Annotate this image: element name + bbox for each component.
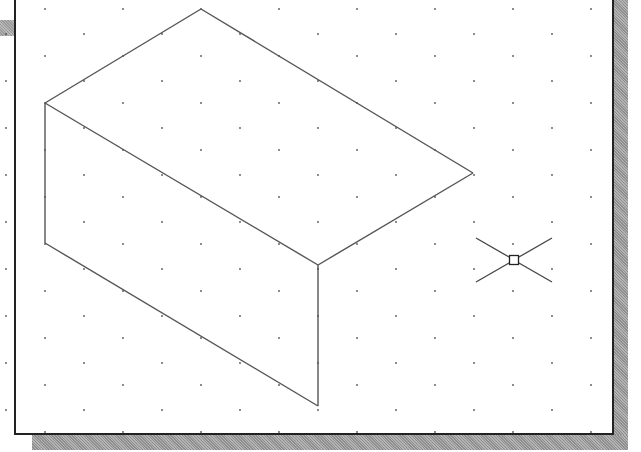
grid-dot [356,196,358,198]
grid-dot [512,337,514,339]
grid-dot [5,268,7,270]
grid-dot [590,337,592,339]
grid-dot [278,243,280,245]
grid-dot [278,8,280,10]
grid-dot [434,431,436,433]
grid-dot [395,80,397,82]
grid-dot [512,384,514,386]
grid-dot [356,243,358,245]
grid-dot [278,384,280,386]
grid-dot [356,290,358,292]
grid-dot [590,102,592,104]
grid-dot [83,33,85,35]
box-edge-left_top-front_top[interactable] [45,103,318,265]
grid-dot [5,409,7,411]
grid-dot [200,55,202,57]
grid-dot [434,243,436,245]
grid-dot [5,174,7,176]
box-edge-top-left_top[interactable] [45,9,201,103]
grid-dot [512,290,514,292]
crosshair-cursor-icon [476,238,552,282]
grid-dot [356,8,358,10]
grid-dot [473,362,475,364]
grid-dot [473,33,475,35]
grid-dot [278,337,280,339]
grid-dot [83,362,85,364]
grid-dot [239,315,241,317]
grid-dot [278,431,280,433]
grid-dot [473,221,475,223]
grid-dot [512,243,514,245]
grid-dot [395,221,397,223]
grid-dot [551,268,553,270]
grid-dot [512,149,514,151]
pickbox-icon [510,256,519,265]
grid-dot [473,315,475,317]
grid-dot [5,362,7,364]
isometric-box[interactable] [45,9,473,406]
grid-dot [200,431,202,433]
grid-dot [551,174,553,176]
grid-dot [239,174,241,176]
grid-dot [512,431,514,433]
grid-dot [122,8,124,10]
grid-dot [434,290,436,292]
grid-dot [473,80,475,82]
grid-dot [551,127,553,129]
grid-dot [239,127,241,129]
grid-dot [317,174,319,176]
grid-dot [83,315,85,317]
grid-dot [200,290,202,292]
grid-dot [239,221,241,223]
grid-dot [590,196,592,198]
grid-dot [317,221,319,223]
grid-dot [278,149,280,151]
grid-dot [434,8,436,10]
grid-dot [356,55,358,57]
grid-dot [551,221,553,223]
grid-dot [122,102,124,104]
crosshair-arm [519,263,553,282]
grid-dot [395,33,397,35]
grid-dot [200,243,202,245]
grid-dot [83,221,85,223]
grid-dot [122,243,124,245]
box-edge-right-front_top[interactable] [318,173,473,265]
grid-dot [512,102,514,104]
grid-dot [278,102,280,104]
crosshair-arm [519,238,553,257]
grid-dot [590,8,592,10]
grid-dot [161,80,163,82]
grid-dot [434,55,436,57]
grid-dot [434,384,436,386]
grid-dot [161,268,163,270]
isometric-grid [5,8,592,433]
grid-dot [44,55,46,57]
grid-dot [590,243,592,245]
grid-dot [200,102,202,104]
grid-dot [317,409,319,411]
grid-dot [161,315,163,317]
box-edge-left_bottom-front_bottom[interactable] [45,243,318,406]
grid-dot [161,362,163,364]
grid-dot [551,80,553,82]
grid-dot [161,127,163,129]
grid-dot [473,268,475,270]
grid-dot [551,409,553,411]
drawing-viewport[interactable] [14,0,614,435]
grid-dot [395,409,397,411]
crosshair-arm [476,263,510,282]
drawing-canvas[interactable] [2,0,641,452]
grid-dot [122,196,124,198]
grid-dot [122,431,124,433]
grid-dot [200,149,202,151]
box-edge-top-right[interactable] [201,9,473,173]
grid-dot [161,174,163,176]
grid-dot [551,315,553,317]
grid-dot [512,8,514,10]
grid-dot [551,362,553,364]
grid-dot [356,431,358,433]
grid-dot [5,33,7,35]
grid-dot [44,8,46,10]
grid-dot [356,384,358,386]
